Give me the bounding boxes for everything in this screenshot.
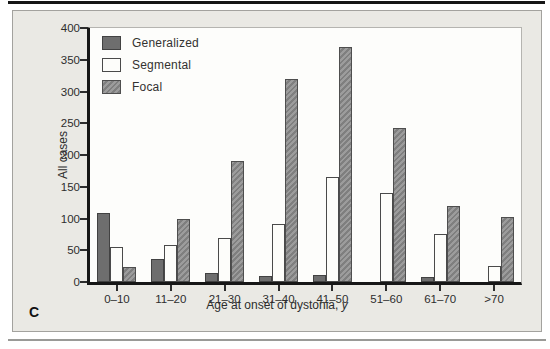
y-tick-mark — [80, 122, 87, 124]
x-tick-mark — [385, 285, 387, 291]
legend: GeneralizedSegmentalFocal — [102, 36, 199, 102]
x-tick-mark — [439, 285, 441, 291]
panel-label: C — [29, 304, 39, 320]
bottom-rule — [8, 339, 546, 341]
y-tick-label: 250 — [42, 116, 80, 130]
y-tick-label: 400 — [42, 21, 80, 35]
x-axis-title: Age at onset of dystonia, y — [13, 298, 541, 312]
y-tick-mark — [80, 91, 87, 93]
y-tick-label: 350 — [42, 53, 80, 67]
y-tick-mark — [80, 27, 87, 29]
bar-focal — [177, 219, 190, 283]
bar-generalized — [205, 273, 218, 282]
bar-segmental — [380, 193, 393, 282]
x-tick-mark — [493, 285, 495, 291]
bar-segmental — [164, 245, 177, 282]
legend-label: Focal — [132, 80, 162, 94]
bar-focal — [339, 47, 352, 282]
y-tick-label: 150 — [42, 180, 80, 194]
y-tick-mark — [80, 186, 87, 188]
x-tick-mark — [170, 285, 172, 291]
x-axis-title-unit: y — [342, 298, 348, 312]
legend-label: Segmental — [132, 58, 191, 72]
page: { "panel_label": "C", "colors": { "gener… — [0, 0, 550, 349]
x-tick-mark — [331, 285, 333, 291]
bar-generalized — [259, 276, 272, 282]
bar-generalized — [97, 213, 110, 282]
legend-row: Segmental — [102, 58, 199, 72]
bar-focal — [285, 79, 298, 282]
y-tick-mark — [80, 249, 87, 251]
y-tick-mark — [80, 59, 87, 61]
bar-segmental — [326, 177, 339, 282]
bar-focal — [231, 161, 244, 282]
x-tick-mark — [116, 285, 118, 291]
y-tick-mark — [80, 218, 87, 220]
bar-focal — [501, 217, 514, 282]
legend-swatch-focal-icon — [102, 80, 121, 94]
bar-focal — [123, 267, 136, 282]
bar-focal — [447, 206, 460, 282]
y-tick-label: 50 — [42, 243, 80, 257]
bar-segmental — [110, 247, 123, 282]
y-tick-mark — [80, 281, 87, 283]
x-tick-mark — [224, 285, 226, 291]
y-tick-mark — [80, 154, 87, 156]
legend-swatch-generalized-icon — [102, 36, 121, 50]
x-axis-title-text: Age at onset of dystonia, — [206, 298, 341, 312]
bar-segmental — [218, 238, 231, 282]
bar-segmental — [272, 224, 285, 282]
bar-generalized — [421, 277, 434, 282]
bar-generalized — [313, 275, 326, 282]
y-tick-label: 200 — [42, 148, 80, 162]
plot-area: All cases GeneralizedSegmentalFocal 0501… — [87, 27, 522, 285]
legend-swatch-segmental-icon — [102, 58, 121, 72]
y-tick-label: 0 — [42, 275, 80, 289]
top-rule — [8, 1, 545, 4]
x-tick-mark — [278, 285, 280, 291]
y-tick-label: 300 — [42, 85, 80, 99]
bar-focal — [393, 128, 406, 282]
bar-segmental — [434, 234, 447, 282]
figure-panel: All cases GeneralizedSegmentalFocal 0501… — [12, 10, 542, 332]
bar-segmental — [488, 266, 501, 283]
y-tick-label: 100 — [42, 212, 80, 226]
legend-row: Focal — [102, 80, 199, 94]
bar-generalized — [151, 259, 164, 282]
legend-row: Generalized — [102, 36, 199, 50]
legend-label: Generalized — [132, 36, 199, 50]
